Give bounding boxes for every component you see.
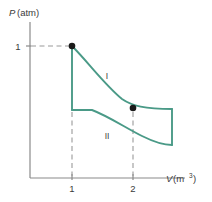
x-axis-unit-close: ) (193, 173, 196, 184)
y-axis-unit: (atm) (17, 7, 39, 18)
curve-one-path (72, 46, 172, 109)
mid-point-marker (130, 105, 137, 112)
y-tick-label-1: 1 (15, 41, 20, 52)
x-tick-label-2: 2 (130, 183, 135, 194)
curve-two-path (72, 110, 172, 145)
start-point-marker (69, 43, 76, 50)
curve-two-label: II (105, 131, 110, 141)
pv-diagram-figure: P (atm) V (m 3 ) 1 1 2 I II (0, 0, 212, 202)
pv-diagram-svg: P (atm) V (m 3 ) 1 1 2 I II (0, 0, 212, 202)
x-tick-label-1: 1 (69, 183, 74, 194)
y-axis-symbol: P (9, 7, 16, 18)
curve-one-label: I (106, 71, 108, 81)
x-axis-unit: (m (173, 173, 184, 184)
